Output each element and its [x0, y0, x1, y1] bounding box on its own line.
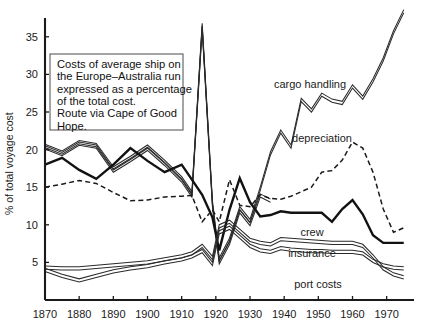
- port-costs-label: port costs: [294, 278, 342, 290]
- x-tick-label: 1890: [101, 308, 125, 320]
- y-tick-label: 5: [32, 256, 38, 268]
- note-line: the Europe–Australia run: [57, 70, 181, 82]
- note-line: expressed as a percentage: [57, 83, 192, 95]
- insurance-label: insurance: [288, 247, 336, 259]
- note-line: Hope.: [57, 120, 87, 132]
- x-tick-label: 1910: [169, 308, 193, 320]
- note-box: Costs of average ship onthe Europe–Austr…: [50, 54, 192, 132]
- note-line: Route via Cape of Good: [57, 107, 177, 119]
- y-tick-label: 25: [26, 106, 38, 118]
- x-tick-label: 1950: [306, 308, 330, 320]
- y-tick-label: 20: [26, 144, 38, 156]
- y-tick-label: 15: [26, 181, 38, 193]
- x-tick-label: 1880: [67, 308, 91, 320]
- y-tick-label: 35: [26, 31, 38, 43]
- series-layer: [45, 10, 404, 282]
- chart-container: 5101520253035 18701880189019001910192019…: [0, 0, 422, 334]
- x-tick-label: 1920: [204, 308, 228, 320]
- series-depreciation: [45, 142, 404, 232]
- x-tick-label: 1900: [135, 308, 159, 320]
- x-tick-label: 1960: [340, 308, 364, 320]
- note-line: of the total cost.: [57, 95, 136, 107]
- y-tick-label: 10: [26, 219, 38, 231]
- cargo-handling-label: cargo handling: [274, 78, 346, 90]
- x-tick-label: 1930: [238, 308, 262, 320]
- x-tick-label: 1940: [272, 308, 296, 320]
- x-tick-label: 1970: [374, 308, 398, 320]
- voyage-cost-line-chart: 5101520253035 18701880189019001910192019…: [0, 0, 422, 334]
- crew-label: crew: [300, 226, 323, 238]
- y-axis-title: % of total voyage cost: [3, 112, 15, 215]
- note-line: Costs of average ship on: [57, 58, 181, 70]
- y-tick-label: 30: [26, 68, 38, 80]
- depreciation-label: depreciation: [292, 132, 352, 144]
- x-tick-label: 1870: [33, 308, 57, 320]
